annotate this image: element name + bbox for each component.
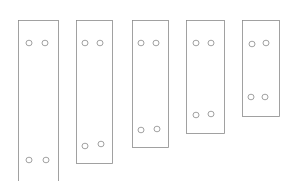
plate-3 (133, 21, 169, 148)
hole-icon (138, 127, 144, 133)
hole-icon (26, 157, 32, 163)
hole-icon (208, 111, 214, 117)
hole-icon (154, 126, 160, 132)
hole-icon (98, 141, 104, 147)
hole-icon (263, 40, 269, 46)
hole-icon (97, 40, 103, 46)
plate-2 (77, 21, 113, 164)
plate-outline (19, 21, 59, 182)
hole-icon (208, 40, 214, 46)
plate-4 (187, 21, 225, 134)
plate-outline (187, 21, 225, 134)
hole-icon (42, 40, 48, 46)
hole-icon (153, 40, 159, 46)
hole-icon (43, 157, 49, 163)
hole-icon (248, 94, 254, 100)
hole-icon (82, 143, 88, 149)
plate-1 (19, 21, 59, 182)
hole-icon (262, 94, 268, 100)
hole-icon (138, 40, 144, 46)
plates-sketch (0, 0, 292, 181)
plate-5 (243, 21, 280, 117)
hole-icon (26, 40, 32, 46)
sketch-canvas (0, 0, 292, 181)
hole-icon (249, 41, 255, 47)
hole-icon (193, 40, 199, 46)
hole-icon (193, 112, 199, 118)
plate-outline (243, 21, 280, 117)
hole-icon (82, 40, 88, 46)
